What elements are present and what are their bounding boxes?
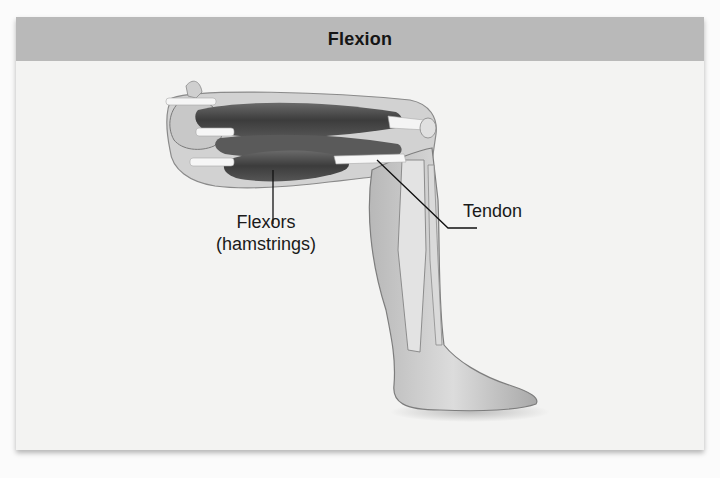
lower-leg-skin <box>369 148 537 411</box>
tendon-mid-left <box>196 128 234 136</box>
flexors-label-line2: (hamstrings) <box>216 233 316 255</box>
tendon-label: Tendon <box>463 200 522 222</box>
flexors-label-line1: Flexors <box>216 211 316 233</box>
tendon-top-left <box>166 98 216 105</box>
kneecap <box>420 118 436 138</box>
tendon-low-left <box>190 158 234 166</box>
leg-flexion-illustration <box>0 0 720 478</box>
flexors-label: Flexors (hamstrings) <box>216 211 316 255</box>
tendon-hamstring-knee <box>334 154 406 164</box>
